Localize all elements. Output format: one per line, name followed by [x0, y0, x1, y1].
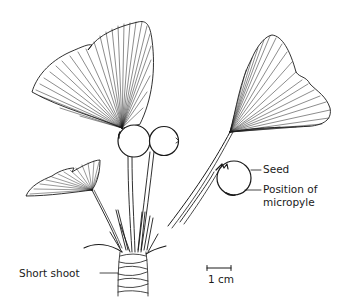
seed-label: Seed: [263, 163, 289, 176]
ginkgo-illustration: [0, 0, 350, 302]
left-large-leaf: [32, 22, 154, 128]
left-seed-stalks: [128, 152, 154, 252]
scale-bar: [207, 266, 231, 271]
scale-bar-label: 1 cm: [208, 273, 234, 286]
bud-scales: [84, 210, 166, 254]
small-left-leaf: [26, 160, 122, 248]
right-seed: [180, 161, 251, 224]
short-shoot-label: Short shoot: [19, 267, 80, 280]
left-seed-pair: [118, 125, 179, 157]
micropyle-label-line2: micropyle: [263, 196, 315, 209]
short-shoot: [118, 252, 148, 296]
micropyle-label-line1: Position of: [263, 183, 317, 196]
